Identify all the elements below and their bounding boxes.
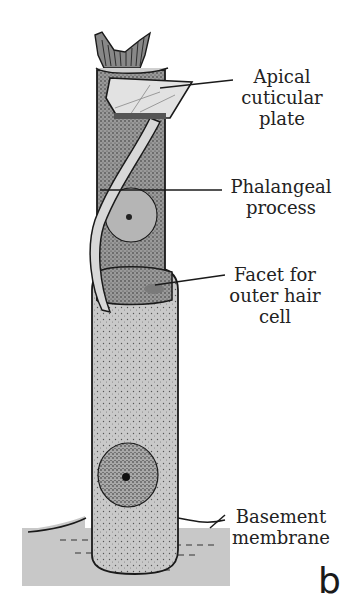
cilia-tuft bbox=[95, 32, 168, 73]
cell-body-lower bbox=[92, 268, 178, 574]
label-facet-outer-hair-cell: Facet for outer hair cell bbox=[220, 264, 330, 327]
nucleus-lower bbox=[98, 443, 158, 507]
apical-cuticular-plate bbox=[106, 78, 192, 119]
label-basement-membrane: Basement membrane bbox=[225, 506, 337, 548]
label-phalangeal-process: Phalangeal process bbox=[222, 176, 340, 218]
panel-letter: b bbox=[318, 560, 341, 601]
label-apical-cuticular-plate: Apical cuticular plate bbox=[232, 66, 332, 129]
facet-outer-hair-cell bbox=[97, 267, 172, 305]
